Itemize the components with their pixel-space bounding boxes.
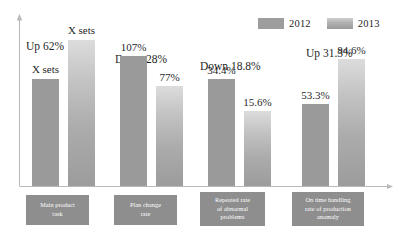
category-line: On time handling (305, 196, 351, 205)
group-annotation: Up 62% (26, 41, 64, 53)
category-label-repeated-rate-abnormal-problems: Repeated rate of abnormal problems (200, 192, 265, 226)
bar-value-label: 15.6% (243, 97, 271, 108)
bar-value-label: X sets (32, 64, 59, 75)
category-label-on-time-handling-rate: On time handling rate of production anom… (292, 192, 364, 226)
bar-2012[interactable]: 107% (120, 56, 147, 186)
bar-group-main-product-task: Up 62% X sets X sets (30, 20, 102, 186)
bar-chart: 2012 2013 Up 62% X sets X sets Down 28% … (0, 0, 410, 245)
category-line: problems (215, 213, 250, 222)
category-line: of abnormal (215, 205, 250, 214)
category-line: task (40, 210, 75, 219)
category-label-main-product-task: Main product task (26, 195, 89, 225)
bar-2012[interactable]: 53.3% (302, 104, 329, 186)
category-line: Plan change (130, 201, 161, 210)
bar-group-on-time-handling-rate: Up 31.3% 53.3% 84.6% (300, 20, 372, 186)
bar-value-label: 53.3% (301, 90, 329, 101)
bar-2013[interactable]: 84.6% (338, 59, 365, 186)
bar-value-label: 84.6% (337, 45, 365, 56)
bar-2012[interactable]: 34.4% (208, 79, 235, 186)
category-line: anomaly (305, 213, 351, 222)
category-line: rate (130, 210, 161, 219)
bar-2012[interactable]: X sets (32, 79, 59, 186)
bar-2013[interactable]: X sets (68, 40, 95, 186)
category-line: Main product (40, 201, 75, 210)
bar-group-plan-change-rate: Down 28% 107% 77% (118, 20, 190, 186)
bar-value-label: 107% (121, 42, 147, 53)
bar-2013[interactable]: 15.6% (244, 111, 271, 186)
category-line: Repeated rate (215, 196, 250, 205)
bar-2013[interactable]: 77% (156, 86, 183, 186)
bar-value-label: 77% (159, 72, 179, 83)
category-line: rate of production (305, 205, 351, 214)
category-label-plan-change-rate: Plan change rate (114, 195, 177, 225)
bar-value-label: X sets (68, 25, 95, 36)
bar-group-repeated-rate-abnormal-problems: Down 18.8% 34.4% 15.6% (206, 20, 278, 186)
plot-area: Up 62% X sets X sets Down 28% 107% 77% D… (19, 20, 398, 186)
bar-value-label: 34.4% (207, 65, 235, 76)
